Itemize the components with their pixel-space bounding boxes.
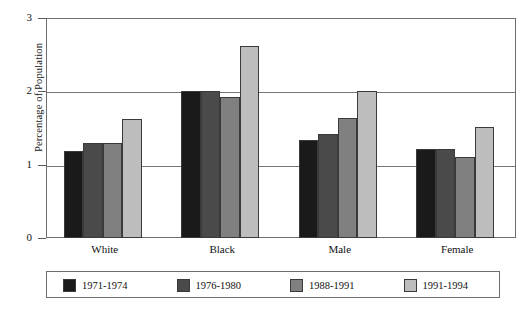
bar bbox=[201, 91, 221, 238]
bar-chart: Percentage of Population 0123 WhiteBlack… bbox=[0, 0, 526, 312]
bar bbox=[436, 149, 456, 238]
bar-series-layer bbox=[46, 18, 516, 238]
y-axis-tick-label: 2 bbox=[2, 84, 32, 96]
y-axis-title: Percentage of Population bbox=[33, 0, 44, 208]
legend: 1971-19741976-19801988-19911991-1994 bbox=[46, 271, 500, 298]
y-axis-tick bbox=[38, 238, 46, 239]
x-axis-label: White bbox=[46, 243, 164, 255]
bar bbox=[475, 127, 495, 238]
bar bbox=[240, 46, 260, 238]
x-axis-label: Black bbox=[164, 243, 282, 255]
bar bbox=[357, 91, 377, 238]
legend-swatch-icon bbox=[63, 279, 76, 292]
x-axis-label: Female bbox=[399, 243, 517, 255]
y-axis-tick-label: 3 bbox=[2, 11, 32, 23]
legend-swatch-icon bbox=[290, 279, 303, 292]
bar bbox=[338, 118, 358, 238]
legend-item[interactable]: 1976-1980 bbox=[177, 277, 242, 293]
y-axis-tick-label: 1 bbox=[2, 158, 32, 170]
y-axis-tick bbox=[38, 91, 46, 92]
bar bbox=[318, 134, 338, 238]
bar bbox=[299, 140, 319, 238]
legend-label: 1991-1994 bbox=[423, 280, 469, 291]
y-axis-tick bbox=[38, 18, 46, 19]
bar bbox=[103, 143, 123, 238]
y-axis-tick bbox=[38, 165, 46, 166]
legend-label: 1988-1991 bbox=[309, 280, 355, 291]
bar bbox=[83, 143, 103, 238]
legend-item[interactable]: 1988-1991 bbox=[290, 277, 355, 293]
legend-label: 1976-1980 bbox=[196, 280, 242, 291]
legend-swatch-icon bbox=[177, 279, 190, 292]
legend-item[interactable]: 1971-1974 bbox=[63, 277, 128, 293]
bar bbox=[455, 157, 475, 238]
legend-item[interactable]: 1991-1994 bbox=[404, 277, 469, 293]
bar bbox=[416, 149, 436, 238]
y-axis-tick-label: 0 bbox=[2, 231, 32, 243]
bar bbox=[220, 97, 240, 238]
bar bbox=[122, 119, 142, 238]
legend-label: 1971-1974 bbox=[82, 280, 128, 291]
legend-swatch-icon bbox=[404, 279, 417, 292]
x-axis-label: Male bbox=[281, 243, 399, 255]
bar bbox=[64, 151, 84, 238]
bar bbox=[181, 91, 201, 238]
